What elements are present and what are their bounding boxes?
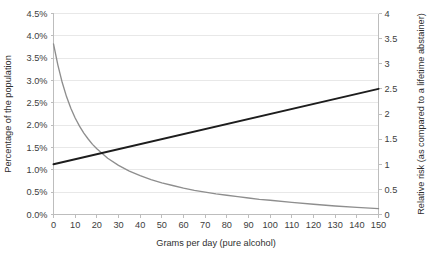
- x-tick-label: 130: [327, 220, 342, 230]
- y-left-tick-labels: 0.0%0.5%1.0%1.5%2.0%2.5%3.0%3.5%4.0%4.5%: [27, 9, 48, 220]
- x-tick-label: 150: [371, 220, 386, 230]
- y-left-tick-label: 3.0%: [27, 76, 48, 86]
- x-tick-label: 100: [262, 220, 277, 230]
- axis-lines-group: [54, 14, 379, 215]
- x-tick-label: 140: [349, 220, 364, 230]
- x-tick-label: 0: [51, 220, 56, 230]
- x-axis-title: Grams per day (pure alcohol): [156, 238, 276, 248]
- x-tick-label: 110: [285, 220, 300, 230]
- y-right-tick-label: 1.5: [385, 134, 398, 144]
- y-right-tick-label: 3: [385, 59, 390, 69]
- y-right-tick-label: 3.5: [385, 34, 398, 44]
- x-tick-label: 70: [200, 220, 210, 230]
- y-left-tick-label: 2.5%: [27, 98, 48, 108]
- y-left-tick-label: 4.0%: [27, 31, 48, 41]
- y-left-tick-label: 0.0%: [27, 210, 48, 220]
- tickmarks-group: [51, 14, 382, 218]
- x-tick-label: 10: [70, 220, 80, 230]
- y-left-axis-title: Percentage of the population: [3, 55, 13, 173]
- gridlines-group: [54, 14, 379, 215]
- y-left-tick-label: 1.0%: [27, 165, 48, 175]
- y-right-tick-label: 2: [385, 109, 390, 119]
- series-group: [54, 44, 379, 209]
- x-tick-label: 80: [222, 220, 232, 230]
- y-right-tick-label: 4: [385, 9, 390, 19]
- y-left-tick-label: 3.5%: [27, 53, 48, 63]
- x-tick-label: 40: [135, 220, 145, 230]
- x-tick-label: 50: [157, 220, 167, 230]
- y-right-tick-label: 0.5: [385, 185, 398, 195]
- y-right-tick-label: 2.5: [385, 84, 398, 94]
- x-tick-label: 120: [306, 220, 321, 230]
- y-left-tick-label: 0.5%: [27, 187, 48, 197]
- chart-container: 0102030405060708090100110120130140150 0.…: [0, 0, 432, 271]
- series-relative-risk: [54, 89, 379, 164]
- y-left-tick-label: 4.5%: [27, 9, 48, 19]
- x-tick-label: 20: [92, 220, 102, 230]
- y-right-tick-label: 1: [385, 160, 390, 170]
- y-right-axis-title: Relative risk (as compared to a lifetime…: [416, 13, 426, 215]
- x-tick-label: 90: [243, 220, 253, 230]
- x-tick-label: 30: [113, 220, 123, 230]
- y-left-tick-label: 2.0%: [27, 120, 48, 130]
- x-tick-labels: 0102030405060708090100110120130140150: [51, 220, 386, 230]
- y-right-tick-labels: 00.511.522.533.54: [385, 9, 398, 220]
- x-tick-label: 60: [178, 220, 188, 230]
- y-right-tick-label: 0: [385, 210, 390, 220]
- chart-plot: 0102030405060708090100110120130140150 0.…: [0, 0, 432, 271]
- y-left-tick-label: 1.5%: [27, 143, 48, 153]
